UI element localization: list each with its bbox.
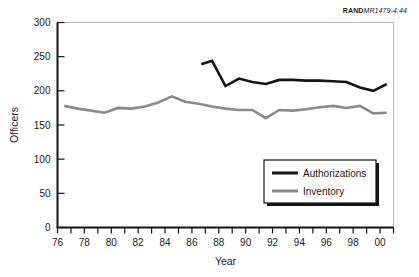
- x-tick-label: 76: [52, 237, 64, 248]
- y-axis-ticks: [58, 23, 65, 228]
- y-tick-label: 50: [39, 188, 51, 199]
- legend-label-authorizations: Authorizations: [303, 168, 366, 179]
- x-axis-title: Year: [215, 255, 237, 267]
- y-tick-label: 100: [34, 154, 51, 165]
- legend-label-inventory: Inventory: [303, 186, 344, 197]
- y-tick-label: 250: [34, 51, 51, 62]
- x-tick-label: 88: [213, 237, 225, 248]
- chart-legend: AuthorizationsInventory: [264, 160, 379, 206]
- data-series-group: [64, 61, 387, 118]
- x-tick-label: 80: [106, 237, 118, 248]
- x-tick-label: 84: [159, 237, 171, 248]
- y-tick-label: 0: [45, 222, 51, 233]
- series-line-authorizations: [201, 61, 386, 91]
- x-tick-label: 86: [186, 237, 198, 248]
- line-chart-plot: 76788082848688909294969800 0501001502002…: [0, 0, 419, 277]
- y-tick-label: 200: [34, 85, 51, 96]
- y-tick-label: 150: [34, 120, 51, 131]
- series-line-inventory: [64, 96, 387, 118]
- x-tick-label: 90: [240, 237, 252, 248]
- x-tick-label: 00: [374, 237, 386, 248]
- x-axis-tick-labels: 76788082848688909294969800: [52, 237, 386, 248]
- y-axis-tick-labels: 050100150200250300: [34, 17, 51, 233]
- x-tick-label: 78: [79, 237, 91, 248]
- x-tick-label: 96: [321, 237, 333, 248]
- y-tick-label: 300: [34, 17, 51, 28]
- y-axis-title: Officers: [8, 107, 20, 143]
- x-tick-label: 98: [348, 237, 360, 248]
- x-tick-label: 82: [133, 237, 145, 248]
- x-tick-label: 92: [267, 237, 279, 248]
- x-tick-label: 94: [294, 237, 306, 248]
- chart-figure: RANDMR1479-4.44 767880828486889092949698…: [0, 0, 419, 277]
